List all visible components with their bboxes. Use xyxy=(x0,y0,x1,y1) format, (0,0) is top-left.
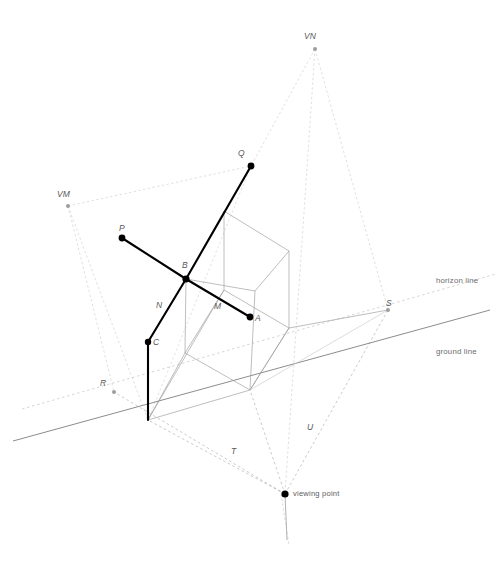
box-wireframe xyxy=(148,211,388,420)
segment-b-c xyxy=(148,279,186,342)
segment-q-b xyxy=(186,166,251,279)
box-edge-vertical-front-left xyxy=(185,279,186,353)
ray-vm-to-r xyxy=(68,206,114,392)
box-ground-left-edge xyxy=(148,390,250,420)
point-markers xyxy=(66,47,390,498)
ray-viewpoint-to-r xyxy=(114,392,285,494)
point-marker-c[interactable] xyxy=(145,339,151,345)
ray-viewpoint-to-groundbase xyxy=(148,420,285,494)
vanishing-ray-group xyxy=(68,49,388,545)
perspective-construction-svg xyxy=(0,0,504,561)
label-m: M xyxy=(214,302,221,311)
label-s: S xyxy=(386,299,392,308)
point-marker-b[interactable] xyxy=(182,275,189,282)
ray-viewpoint-to-boxbase xyxy=(250,390,285,494)
label-t: T xyxy=(231,447,236,456)
label-n: N xyxy=(156,301,162,310)
label-c: C xyxy=(153,338,159,347)
box-base-to-ground-right xyxy=(289,310,388,328)
box-bottom-face xyxy=(185,290,289,390)
label-r: R xyxy=(100,379,106,388)
ray-viewpoint-to-s xyxy=(285,310,388,494)
label-p: P xyxy=(119,224,125,233)
point-marker-a[interactable] xyxy=(247,314,254,321)
box-base-diagonal-far xyxy=(250,328,289,390)
ray-vm-to-ground xyxy=(68,206,148,420)
ray-vn-to-s xyxy=(315,49,388,310)
label-vm: VM xyxy=(57,190,70,199)
ray-viewpoint-drop xyxy=(285,494,287,540)
label-u: U xyxy=(307,423,313,432)
object-edges-bold xyxy=(122,166,251,420)
horizon-line xyxy=(22,274,496,409)
ray-vn-to-q xyxy=(251,49,315,166)
point-marker-vm[interactable] xyxy=(66,204,70,208)
diagram-canvas: VM VN P Q B N M A C R S T U horizon line… xyxy=(0,0,504,561)
point-marker-r[interactable] xyxy=(112,390,116,394)
label-a: A xyxy=(255,314,261,323)
segment-p-b xyxy=(122,238,186,279)
label-ground-line: ground line xyxy=(436,348,477,356)
label-horizon-line: horizon line xyxy=(436,277,478,285)
label-b: B xyxy=(182,261,188,270)
box-base-to-ground-front xyxy=(250,310,388,390)
label-vn: VN xyxy=(304,32,316,41)
point-marker-viewing-point[interactable] xyxy=(281,490,288,497)
label-viewing-point: viewing point xyxy=(293,490,340,498)
point-marker-s[interactable] xyxy=(386,308,390,312)
point-marker-p[interactable] xyxy=(119,235,126,242)
point-marker-q[interactable] xyxy=(248,163,255,170)
point-marker-vn[interactable] xyxy=(313,47,317,51)
label-q: Q xyxy=(238,149,245,158)
ray-vm-to-p xyxy=(68,166,251,206)
ground-line xyxy=(13,310,490,441)
